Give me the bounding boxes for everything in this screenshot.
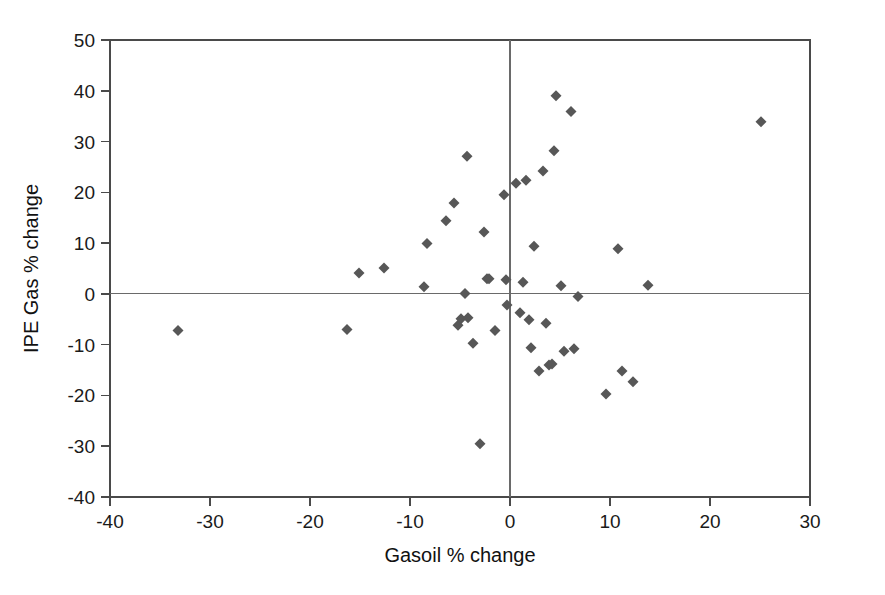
data-point-marker — [518, 277, 529, 288]
data-point-marker — [468, 338, 479, 349]
plot-canvas: -40-30-20-1001020304050-40-30-20-1001020… — [0, 0, 885, 595]
data-point-marker — [173, 325, 184, 336]
data-point-marker — [569, 343, 580, 354]
data-point-marker — [463, 312, 474, 323]
axis-labels-group: Gasoil % changeIPE Gas % change — [20, 184, 536, 566]
y-tick-label: 0 — [84, 284, 95, 305]
data-point-marker — [601, 388, 612, 399]
data-point-marker — [422, 238, 433, 249]
data-point-marker — [511, 178, 522, 189]
zero-reference-lines — [110, 40, 810, 497]
data-point-marker — [484, 273, 495, 284]
data-point-marker — [490, 325, 501, 336]
x-tick-label: -20 — [296, 511, 323, 532]
x-tick-label: 0 — [505, 511, 516, 532]
data-point-marker — [613, 243, 624, 254]
y-tick-label: -10 — [68, 335, 95, 356]
y-tick-label: 30 — [74, 132, 95, 153]
data-point-marker — [354, 268, 365, 279]
data-point-marker — [538, 166, 549, 177]
data-point-marker — [541, 318, 552, 329]
x-tick-label: -30 — [196, 511, 223, 532]
data-point-marker — [449, 197, 460, 208]
data-point-marker — [643, 280, 654, 291]
data-point-marker — [617, 366, 628, 377]
data-point-marker — [524, 314, 535, 325]
y-tick-label: 40 — [74, 81, 95, 102]
data-points-group — [173, 90, 767, 449]
y-tick-label: 20 — [74, 182, 95, 203]
data-point-marker — [441, 215, 452, 226]
data-point-marker — [551, 90, 562, 101]
y-tick-label: 10 — [74, 233, 95, 254]
data-point-marker — [526, 342, 537, 353]
data-point-marker — [499, 189, 510, 200]
x-axis-title: Gasoil % change — [384, 544, 535, 566]
y-tick-label: -40 — [68, 487, 95, 508]
axis-ticks-group: -40-30-20-1001020304050-40-30-20-1001020… — [68, 30, 821, 532]
y-tick-label: -20 — [68, 385, 95, 406]
scatter-plot-figure: -40-30-20-1001020304050-40-30-20-1001020… — [0, 0, 885, 595]
data-point-marker — [529, 241, 540, 252]
data-point-marker — [475, 438, 486, 449]
data-point-marker — [479, 226, 490, 237]
data-point-marker — [379, 262, 390, 273]
data-point-marker — [556, 280, 567, 291]
data-point-marker — [515, 307, 526, 318]
data-point-marker — [502, 300, 513, 311]
data-point-marker — [573, 291, 584, 302]
data-point-marker — [460, 288, 471, 299]
data-point-marker — [419, 281, 430, 292]
x-tick-label: 20 — [699, 511, 720, 532]
axes-group — [110, 40, 810, 497]
data-point-marker — [566, 106, 577, 117]
y-tick-label: -30 — [68, 436, 95, 457]
data-point-marker — [462, 151, 473, 162]
y-tick-label: 50 — [74, 30, 95, 51]
plot-frame — [110, 40, 810, 497]
data-point-marker — [549, 145, 560, 156]
data-point-marker — [534, 366, 545, 377]
data-point-marker — [521, 175, 532, 186]
data-point-marker — [756, 116, 767, 127]
x-tick-label: 30 — [799, 511, 820, 532]
x-tick-label: -10 — [396, 511, 423, 532]
data-point-marker — [559, 346, 570, 357]
data-point-marker — [342, 324, 353, 335]
data-point-marker — [628, 376, 639, 387]
x-tick-label: -40 — [96, 511, 123, 532]
x-tick-label: 10 — [599, 511, 620, 532]
y-axis-title: IPE Gas % change — [20, 184, 42, 353]
